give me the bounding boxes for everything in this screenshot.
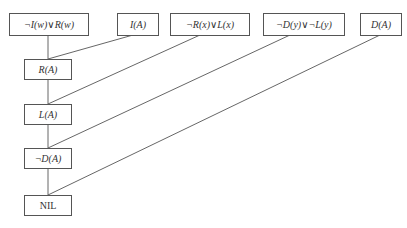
premise-label-1: ¬I(w)∨R(w) [24,19,74,30]
edge-p5-r4 [48,35,380,195]
premise-label-2: I(A) [130,19,146,30]
resolvent-node-1: R(A) [24,59,72,80]
premise-label-3: ¬R(x)∨L(x) [186,19,234,30]
premise-node-5: D(A) [360,13,402,36]
premise-node-3: ¬R(x)∨L(x) [170,13,250,36]
premise-node-1: ¬I(w)∨R(w) [9,13,89,36]
premise-node-2: I(A) [117,13,159,36]
resolvent-label-3: ¬D(A) [35,153,62,164]
premise-label-4: ¬D(y)∨¬L(y) [276,19,332,30]
resolvent-node-2: L(A) [24,104,72,125]
resolvent-node-3: ¬D(A) [24,148,72,169]
premise-node-4: ¬D(y)∨¬L(y) [263,13,345,36]
resolution-diagram: ¬I(w)∨R(w) I(A) ¬R(x)∨L(x) ¬D(y)∨¬L(y) D… [0,0,407,228]
edge-p4-r3 [48,35,290,148]
resolvent-label-nil: NIL [40,200,57,211]
premise-label-5: D(A) [371,19,391,30]
resolvent-node-nil: NIL [24,195,72,216]
edge-p2-r1 [48,35,133,59]
resolvent-label-2: L(A) [39,109,57,120]
resolvent-label-1: R(A) [39,64,58,75]
